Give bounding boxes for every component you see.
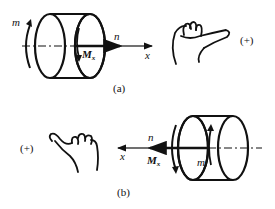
label-n-b: n	[148, 131, 154, 143]
label-n-a: n	[114, 30, 120, 42]
right-hand-icon-a	[173, 22, 230, 64]
figure-a: m Mx n x (+) (a)	[12, 14, 254, 95]
caption-b: (b)	[117, 186, 130, 199]
sign-label-b: (+)	[20, 142, 34, 155]
label-m-b: m	[197, 156, 205, 168]
torque-mx-arrow-b	[209, 128, 211, 165]
label-mx-b: Mx	[146, 154, 161, 168]
right-hand-icon-b	[50, 134, 98, 172]
sign-label-a: (+)	[240, 34, 254, 47]
label-x-b: x	[119, 150, 125, 162]
label-x-a: x	[144, 49, 150, 61]
torsion-sign-convention-diagram: m Mx n x (+) (a) n Mx	[0, 0, 275, 209]
figure-b: n Mx m x (+) (b)	[20, 116, 262, 199]
caption-a: (a)	[113, 82, 126, 95]
label-m-a: m	[12, 16, 20, 28]
